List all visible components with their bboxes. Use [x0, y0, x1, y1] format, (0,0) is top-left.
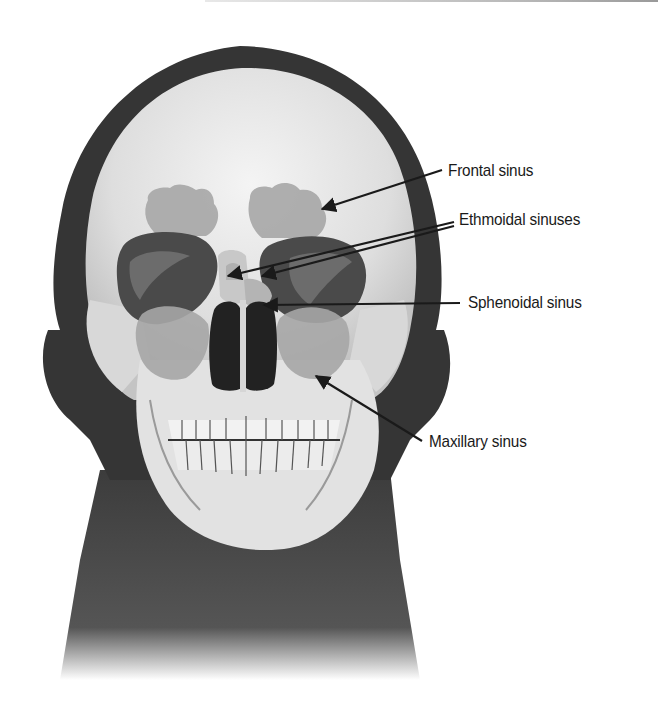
nasal-cavity [209, 300, 277, 392]
label-frontal-sinus: Frontal sinus [448, 161, 533, 181]
skull-sinus-illustration [0, 0, 658, 704]
label-maxillary-sinus: Maxillary sinus [429, 432, 527, 452]
label-ethmoidal-sinuses: Ethmoidal sinuses [459, 210, 580, 230]
teeth [168, 416, 340, 476]
label-sphenoidal-sinus: Sphenoidal sinus [468, 293, 582, 313]
